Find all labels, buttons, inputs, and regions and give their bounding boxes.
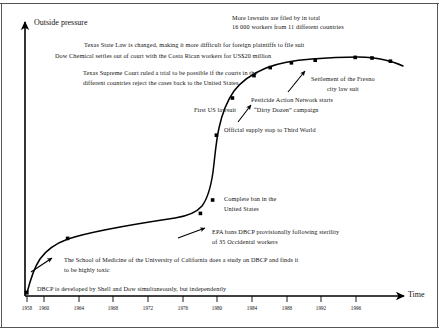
marker-1982 [231,96,235,100]
marker-1994 [370,56,374,60]
annotation-texas-supreme-line1: Texas Supreme Court ruled a trial to be … [83,69,257,78]
x-tick-label-1964: 1964 [67,305,91,311]
marker-1993 [353,56,357,60]
x-tick-label-1976: 1976 [171,305,195,311]
x-tick-label-1980: 1980 [205,305,229,311]
marker-1958 [25,291,29,295]
x-tick-label-1972: 1972 [136,305,160,311]
leader-texas-supreme [288,71,305,92]
marker-1977 [199,212,203,216]
annotation-more-lawsuits-line1: More lawsuits are filed by in total [232,14,320,23]
annotation-epa-line1: EPA bans DBCP provisionally following st… [212,228,339,237]
marker-1996 [389,59,393,63]
x-tick-label-1988: 1988 [275,305,299,311]
annotation-pesticide-line1: Pesticide Action Network starts [251,96,333,105]
x-tick-label-1960: 1960 [32,305,56,311]
annotation-fresno-line2: city law suit [327,85,359,94]
marker-1979 [211,198,215,202]
y-axis-title: Outside pressure [34,18,88,27]
annotation-fresno-line1: Settlement of the Fresno [311,75,375,84]
x-tick-label-1996: 1996 [344,305,368,311]
x-tick-label-1992: 1992 [309,305,333,311]
annotation-official-supply-stop: Official supply stop to Third World [224,126,316,135]
annotation-epa-line2: of 35 Occidental workers [212,238,278,247]
marker-1961 [66,237,70,241]
timeline-figure: Outside pressure Time More lawsuits are … [0,0,439,331]
annotation-first-us-lawsuit: First US lawsuit [194,106,236,115]
annotation-pesticide-line2: “Dirty Dozen” campaign [254,106,319,115]
x-tick-label-1984: 1984 [240,305,264,311]
annotation-more-lawsuits-line2: 16 000 workers from 11 different countri… [232,23,344,32]
marker-1981 [215,133,219,137]
x-axis-title: Time [408,290,425,299]
annotation-school-line1: The School of Medicine of the University… [64,256,298,265]
chart-canvas [0,0,439,331]
annotation-complete-ban-line1: Complete ban in the [224,195,276,204]
marker-1988 [290,61,294,65]
marker-1991 [313,58,317,62]
annotation-texas-supreme-line2: different countries reject the cases bac… [83,79,239,88]
annotation-school-line2: to be highly toxic [64,266,110,275]
marker-1986 [268,66,272,70]
annotation-dbcp-developed: DBCP is developed by Shell and Dow simul… [37,285,226,294]
leader-epa [178,228,205,238]
leader-first-us-lawsuit [238,105,251,122]
annotation-texas-state-law: Texas State Law is changed, making it mo… [84,41,304,50]
x-axis-ticks [27,296,356,302]
leader-school-of-medicine [31,258,52,272]
annotation-dow-chemical: Dow Chemical settles out of court with t… [55,52,271,61]
x-tick-label-1968: 1968 [101,305,125,311]
annotation-complete-ban-line2: United States [224,205,259,214]
